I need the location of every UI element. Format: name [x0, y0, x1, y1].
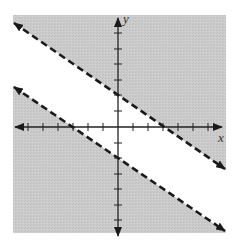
y-axis-label: y [121, 11, 129, 26]
x-axis-label: x [217, 130, 224, 145]
inequality-graph: x y [0, 0, 232, 244]
